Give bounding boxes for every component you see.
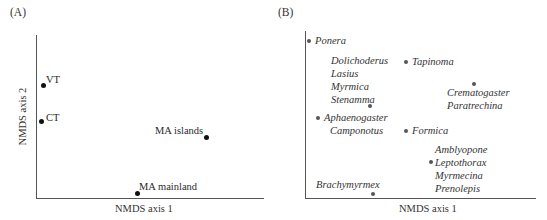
data-point-ct [39,119,44,124]
data-point-aphaenogaster-group [316,116,321,121]
point-label-formica: Formica [412,124,448,137]
point-label-ma-mainland: MA mainland [139,180,197,193]
x-axis-title: NMDS axis 1 [115,203,173,214]
panel-a-nmds-sites: (A) NMDS axis 1 NMDS axis 2 VT CT MA isl… [0,0,275,220]
point-label-ponera: Ponera [315,34,346,47]
data-point-dolichoderus-group [368,104,373,109]
point-label-brachymyrmex: Brachymyrmex [316,178,380,191]
panel-a-label: (A) [10,6,26,18]
data-point-vt [41,83,46,88]
x-axis-line [305,198,536,199]
point-label-crematogaster-group: Crematogaster Paratrechina [447,86,510,112]
x-axis-title: NMDS axis 1 [399,203,457,214]
data-point-amblyopone-group [429,160,434,165]
data-point-formica [404,129,409,134]
point-label-ct: CT [46,111,59,124]
data-point-ma-islands [204,135,209,140]
data-point-brachymyrmex [371,192,376,197]
point-label-tapinoma: Tapinoma [412,55,454,68]
x-axis-line [36,198,264,199]
point-label-ma-islands: MA islands [155,124,203,137]
point-label-amblyopone-group: Amblyopone Leptothorax Myrmecina Prenole… [435,143,488,195]
data-point-tapinoma [404,60,409,65]
panel-b-label: (B) [278,6,293,18]
y-axis-title: NMDS axis 2 [17,85,28,149]
panel-b-nmds-genera: (B) NMDS axis 1 Ponera Dolichoderus Lasi… [275,0,547,220]
point-label-dolichoderus-group: Dolichoderus Lasius Myrmica Stenamma [331,54,388,106]
data-point-ponera [307,39,312,44]
y-axis-line [305,31,306,199]
y-axis-line [36,35,37,199]
point-label-aphaenogaster-group: Aphaenogaster Camponotus [324,111,388,137]
point-label-vt: VT [46,73,60,86]
